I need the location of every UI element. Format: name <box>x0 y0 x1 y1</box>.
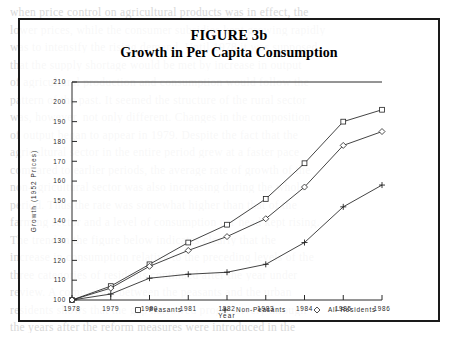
figure-number: FIGURE 3b <box>20 27 438 44</box>
data-point-marker <box>186 240 191 245</box>
chart-plot-area: 100110120130140150160170180190200210 197… <box>20 74 442 320</box>
series-line <box>72 185 382 300</box>
data-point-marker <box>185 247 191 253</box>
legend-item-non-peasants[interactable]: Non-Peasants <box>222 306 286 313</box>
data-point-marker <box>341 119 346 124</box>
data-point-marker <box>224 234 230 240</box>
data-point-marker <box>224 269 230 275</box>
chart-legend: PeasantsNon-PeasantsAll-Residents <box>20 302 442 322</box>
legend-marker-square <box>136 308 141 313</box>
data-point-marker <box>302 161 307 166</box>
y-tick-label: 160 <box>53 177 66 184</box>
data-series-layer <box>69 107 385 303</box>
data-point-marker <box>379 182 385 188</box>
legend-item-all-residents[interactable]: All-Residents <box>314 306 376 313</box>
y-tick-label: 200 <box>53 98 66 105</box>
y-axis-ticks: 100110120130140150160170180190200210 <box>53 78 77 303</box>
page-bleed-line: the years after the reform measures were… <box>10 321 454 333</box>
legend-label: Non-Peasants <box>236 306 286 313</box>
y-tick-label: 190 <box>53 118 66 125</box>
figure-subtitle: Growth in Per Capita Consumption <box>20 44 438 62</box>
y-tick-label: 150 <box>53 197 66 204</box>
y-tick-label: 130 <box>53 237 66 244</box>
y-axis-title: Growth (1952 Prices) <box>30 150 38 232</box>
legend-svg: PeasantsNon-PeasantsAll-Residents <box>20 302 442 318</box>
legend-marker-plus <box>222 307 228 313</box>
data-point-marker <box>263 197 268 202</box>
legend-marker-diamond <box>314 307 320 313</box>
legend-item-peasants[interactable]: Peasants <box>136 306 182 313</box>
y-tick-label: 140 <box>53 217 66 224</box>
figure-title-block: FIGURE 3b Growth in Per Capita Consumpti… <box>20 27 438 62</box>
legend-label: All-Residents <box>328 306 376 313</box>
data-point-marker <box>147 275 153 281</box>
y-tick-label: 110 <box>54 276 66 283</box>
y-tick-label: 170 <box>53 158 66 165</box>
y-tick-label: 180 <box>53 138 66 145</box>
page-bleed-line: when price control on agricultural produ… <box>10 6 454 18</box>
data-point-marker <box>379 129 385 135</box>
data-point-marker <box>185 271 191 277</box>
line-chart: 100110120130140150160170180190200210 197… <box>20 74 442 320</box>
y-tick-label: 120 <box>53 257 66 264</box>
data-point-marker <box>108 291 114 297</box>
legend-label: Peasants <box>149 306 182 313</box>
series-all-residents <box>69 129 385 303</box>
data-point-marker <box>380 107 385 112</box>
data-point-marker <box>225 222 230 227</box>
axis-frame <box>72 82 382 300</box>
data-point-marker <box>263 261 269 267</box>
y-tick-label: 210 <box>53 78 66 85</box>
figure-frame: FIGURE 3b Growth in Per Capita Consumpti… <box>18 18 440 322</box>
